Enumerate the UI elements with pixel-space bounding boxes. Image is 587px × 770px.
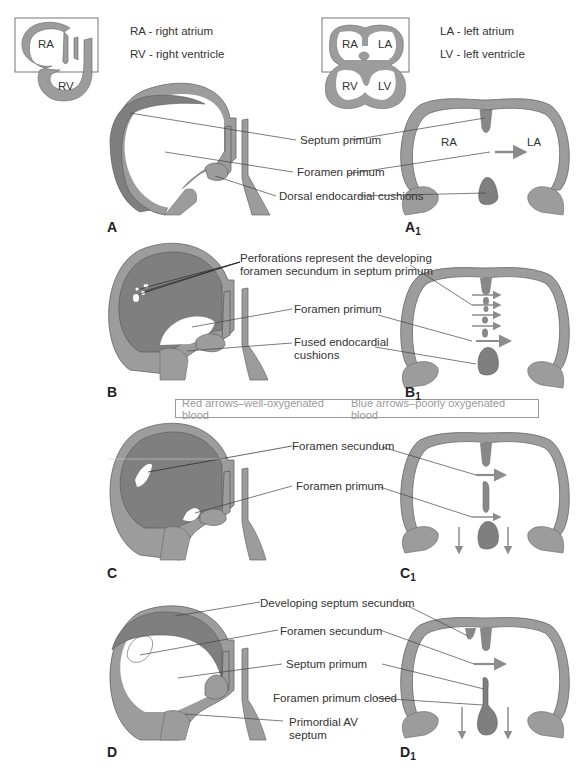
panel-letter-d1: D1 bbox=[400, 744, 416, 762]
legend-red-arrows: Red arrows–well-oxygenated blood bbox=[182, 397, 351, 421]
label-foramen-primum-a: Foramen primum bbox=[297, 166, 385, 179]
arrow-color-legend: Red arrows–well-oxygenated blood Blue ar… bbox=[175, 399, 539, 418]
label-fused-cushions-line2: cushions bbox=[294, 349, 339, 362]
label-perforations-line2: foramen secundum in septum primum bbox=[240, 265, 433, 278]
panel-d1-diagram bbox=[376, 602, 569, 738]
label-foramen-primum-closed: Foramen primum closed bbox=[273, 692, 397, 705]
label-foramen-primum-c: Foramen primum bbox=[296, 480, 384, 493]
label-septum-primum-a: Septum primum bbox=[300, 134, 381, 147]
panel-b1-diagram bbox=[375, 265, 569, 388]
label-primordial-av-line2: septum bbox=[289, 729, 327, 742]
panel-letter-a1: A1 bbox=[405, 219, 421, 237]
label-foramen-primum-b: Foramen primum bbox=[294, 303, 382, 316]
key-rv: RV - right ventricle bbox=[130, 48, 224, 60]
panel-letter-c1: C1 bbox=[400, 565, 416, 583]
label-septum-primum-d: Septum primum bbox=[286, 658, 367, 671]
panel-letter-a: A bbox=[107, 219, 117, 235]
embryonic-heart-septation-illustration bbox=[0, 0, 587, 770]
key-la: LA - left atrium bbox=[440, 25, 514, 37]
label-developing-septum-secundum: Developing septum secundum bbox=[260, 597, 415, 610]
inset-left-rv: RV bbox=[58, 80, 74, 93]
inset-left-ra: RA bbox=[38, 38, 54, 51]
panel-letter-b: B bbox=[107, 384, 117, 400]
inset-sagittal-heart bbox=[15, 18, 98, 101]
inset-right-rv: RV bbox=[342, 80, 358, 93]
inset-right-lv: LV bbox=[378, 80, 391, 93]
inset-right-ra: RA bbox=[342, 38, 358, 51]
label-foramen-secundum-d: Foramen secundum bbox=[280, 625, 382, 638]
panel-letter-b1: B1 bbox=[405, 384, 421, 402]
chamber-label-ra: RA bbox=[441, 136, 457, 149]
label-dorsal-endocardial-cushions: Dorsal endocardial cushions bbox=[279, 190, 423, 203]
panel-letter-c: C bbox=[107, 565, 117, 581]
label-fused-cushions-line1: Fused endocardial bbox=[294, 336, 389, 349]
panel-a-diagram bbox=[110, 83, 296, 215]
legend-blue-arrows: Blue arrows–poorly oxygenated blood bbox=[351, 397, 532, 421]
label-perforations-line1: Perforations represent the developing bbox=[240, 252, 432, 265]
panel-d-diagram bbox=[110, 602, 283, 740]
panel-c-diagram bbox=[108, 423, 292, 560]
inset-right-la: LA bbox=[378, 38, 392, 51]
inset-four-chamber-heart bbox=[322, 18, 409, 109]
chamber-label-la: LA bbox=[527, 136, 541, 149]
key-ra: RA - right atrium bbox=[130, 25, 213, 37]
panel-letter-d: D bbox=[107, 744, 117, 760]
label-foramen-secundum-c: Foramen secundum bbox=[292, 440, 394, 453]
label-primordial-av-line1: Primordial AV bbox=[289, 716, 358, 729]
key-lv: LV - left ventricle bbox=[440, 48, 525, 60]
panel-c1-diagram bbox=[380, 433, 569, 553]
